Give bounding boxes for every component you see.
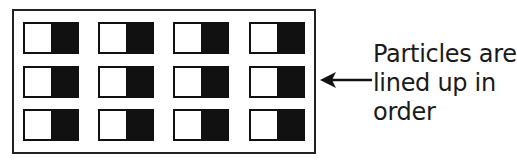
- particle-black-half: [52, 24, 78, 52]
- label-line-1: Particles are: [373, 40, 517, 69]
- particle-black-half: [278, 24, 304, 52]
- arrow-left-icon: [320, 70, 372, 90]
- particle-white-half: [175, 111, 202, 139]
- particle: [98, 109, 154, 141]
- particle-white-half: [25, 111, 52, 139]
- particle: [173, 22, 229, 54]
- particle-white-half: [251, 111, 278, 139]
- particle-black-half: [278, 111, 304, 139]
- particle: [249, 66, 305, 98]
- particle-white-half: [251, 24, 278, 52]
- particle: [98, 22, 154, 54]
- particle: [249, 22, 305, 54]
- particle-white-half: [25, 24, 52, 52]
- label-line-3: order: [373, 98, 517, 127]
- particle-white-half: [175, 68, 202, 96]
- particle: [98, 66, 154, 98]
- particle-black-half: [202, 111, 228, 139]
- particle: [249, 109, 305, 141]
- particle-black-half: [127, 111, 153, 139]
- particle: [173, 66, 229, 98]
- particle-black-half: [278, 68, 304, 96]
- particle-white-half: [25, 68, 52, 96]
- particle-black-half: [202, 68, 228, 96]
- particle-black-half: [127, 68, 153, 96]
- particle: [23, 22, 79, 54]
- particle: [23, 66, 79, 98]
- particle-black-half: [202, 24, 228, 52]
- particle-white-half: [175, 24, 202, 52]
- particle-white-half: [100, 24, 127, 52]
- particle-white-half: [100, 68, 127, 96]
- particle: [23, 109, 79, 141]
- particle-black-half: [52, 68, 78, 96]
- particle-white-half: [251, 68, 278, 96]
- particle-black-half: [52, 111, 78, 139]
- particle-black-half: [127, 24, 153, 52]
- particle-white-half: [100, 111, 127, 139]
- label-line-2: lined up in: [373, 69, 517, 98]
- particle: [173, 109, 229, 141]
- annotation-label: Particles are lined up in order: [373, 40, 517, 127]
